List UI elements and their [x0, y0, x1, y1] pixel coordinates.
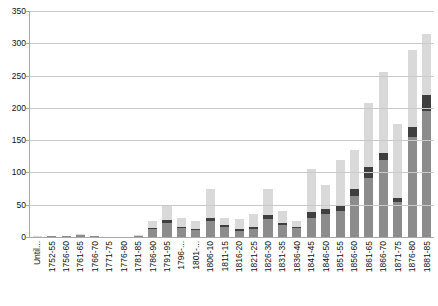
bar-segment-series-top[interactable]	[393, 124, 402, 198]
bar-segment-series-bottom[interactable]	[307, 218, 316, 237]
bar-slot[interactable]	[117, 11, 131, 237]
stacked-bar[interactable]	[90, 236, 99, 237]
bar-segment-series-top[interactable]	[148, 221, 157, 228]
bar-slot[interactable]	[318, 11, 332, 237]
bar-slot[interactable]	[30, 11, 44, 237]
bar-segment-series-bottom[interactable]	[90, 236, 99, 237]
stacked-bar[interactable]	[307, 169, 316, 237]
bar-slot[interactable]	[304, 11, 318, 237]
bar-segment-series-bottom[interactable]	[62, 236, 71, 237]
stacked-bar[interactable]	[379, 72, 388, 237]
bar-segment-series-bottom[interactable]	[235, 231, 244, 237]
bar-slot[interactable]	[290, 11, 304, 237]
bar-segment-series-middle[interactable]	[350, 189, 359, 197]
bar-segment-series-bottom[interactable]	[177, 228, 186, 237]
bar-slot[interactable]	[59, 11, 73, 237]
bar-segment-series-bottom[interactable]	[292, 228, 301, 237]
bar-segment-series-bottom[interactable]	[134, 236, 143, 237]
stacked-bar[interactable]	[263, 189, 272, 237]
stacked-bar[interactable]	[249, 214, 258, 237]
bar-segment-series-top[interactable]	[336, 160, 345, 206]
bar-segment-series-bottom[interactable]	[148, 229, 157, 237]
stacked-bar[interactable]	[148, 221, 157, 237]
bar-slot[interactable]	[174, 11, 188, 237]
bar-slot[interactable]	[88, 11, 102, 237]
bar-segment-series-top[interactable]	[249, 214, 258, 227]
bar-slot[interactable]	[44, 11, 58, 237]
stacked-bar[interactable]	[134, 235, 143, 237]
stacked-bar[interactable]	[47, 236, 56, 237]
y-tick-mark	[26, 205, 30, 206]
bar-segment-series-top[interactable]	[263, 189, 272, 215]
stacked-bar[interactable]	[235, 219, 244, 237]
bar-segment-series-top[interactable]	[220, 218, 229, 226]
bar-slot[interactable]	[261, 11, 275, 237]
bar-segment-series-top[interactable]	[191, 221, 200, 229]
bar-segment-series-top[interactable]	[162, 206, 171, 220]
bar-slot[interactable]	[405, 11, 419, 237]
bar-slot[interactable]	[73, 11, 87, 237]
bar-slot[interactable]	[217, 11, 231, 237]
bar-segment-series-bottom[interactable]	[220, 227, 229, 237]
stacked-bar[interactable]	[336, 160, 345, 237]
stacked-bar[interactable]	[321, 185, 330, 237]
bar-segment-series-top[interactable]	[33, 236, 42, 237]
bar-segment-series-bottom[interactable]	[321, 214, 330, 237]
stacked-bar[interactable]	[292, 221, 301, 237]
stacked-bar[interactable]	[33, 236, 42, 237]
stacked-bar[interactable]	[191, 221, 200, 237]
bar-segment-series-bottom[interactable]	[206, 221, 215, 237]
bar-segment-series-top[interactable]	[350, 150, 359, 189]
bar-segment-series-top[interactable]	[206, 189, 215, 219]
stacked-bar[interactable]	[162, 206, 171, 237]
bar-slot[interactable]	[419, 11, 433, 237]
bar-segment-series-top[interactable]	[177, 218, 186, 227]
stacked-bar[interactable]	[408, 50, 417, 237]
stacked-bar[interactable]	[206, 189, 215, 237]
bar-slot[interactable]	[160, 11, 174, 237]
bar-slot[interactable]	[145, 11, 159, 237]
bar-segment-series-bottom[interactable]	[422, 111, 431, 237]
bar-slot[interactable]	[246, 11, 260, 237]
bar-segment-series-top[interactable]	[235, 219, 244, 229]
bar-segment-series-bottom[interactable]	[336, 211, 345, 237]
bar-segment-series-bottom[interactable]	[162, 223, 171, 237]
bar-slot[interactable]	[347, 11, 361, 237]
stacked-bar[interactable]	[76, 234, 85, 237]
stacked-bar[interactable]	[350, 150, 359, 237]
bar-slot[interactable]	[102, 11, 116, 237]
x-tick-slot: 1756-60	[59, 240, 73, 306]
bar-slot[interactable]	[391, 11, 405, 237]
bar-slot[interactable]	[232, 11, 246, 237]
stacked-bar[interactable]	[422, 34, 431, 237]
bar-slot[interactable]	[376, 11, 390, 237]
stacked-bar[interactable]	[220, 218, 229, 237]
bar-slot[interactable]	[362, 11, 376, 237]
bar-segment-series-top[interactable]	[278, 211, 287, 223]
stacked-bar[interactable]	[278, 211, 287, 237]
bar-segment-series-bottom[interactable]	[364, 178, 373, 237]
bar-segment-series-bottom[interactable]	[350, 196, 359, 237]
bar-segment-series-bottom[interactable]	[379, 160, 388, 237]
x-tick-slot: 1811-15	[217, 240, 231, 306]
stacked-bar[interactable]	[62, 236, 71, 237]
bar-segment-series-bottom[interactable]	[47, 236, 56, 237]
stacked-bar[interactable]	[177, 218, 186, 237]
bar-slot[interactable]	[131, 11, 145, 237]
bar-slot[interactable]	[275, 11, 289, 237]
bar-slot[interactable]	[203, 11, 217, 237]
bar-segment-series-middle[interactable]	[408, 127, 417, 137]
bar-segment-series-bottom[interactable]	[393, 202, 402, 238]
bar-segment-series-bottom[interactable]	[191, 230, 200, 237]
bar-segment-series-top[interactable]	[307, 169, 316, 212]
bar-segment-series-top[interactable]	[408, 50, 417, 127]
bar-segment-series-bottom[interactable]	[278, 225, 287, 237]
bar-segment-series-bottom[interactable]	[249, 229, 258, 237]
bar-segment-series-top[interactable]	[364, 103, 373, 167]
stacked-bar[interactable]	[364, 103, 373, 237]
bar-segment-series-bottom[interactable]	[263, 219, 272, 237]
bar-slot[interactable]	[333, 11, 347, 237]
bar-slot[interactable]	[189, 11, 203, 237]
bar-segment-series-bottom[interactable]	[76, 235, 85, 237]
bar-segment-series-bottom[interactable]	[408, 137, 417, 237]
